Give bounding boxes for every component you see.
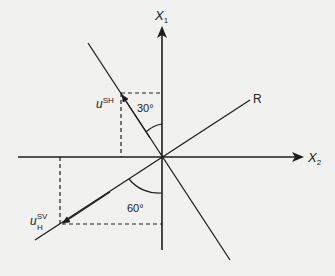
u-h-sv-subscript: H xyxy=(37,223,43,232)
x2-axis-label: X2 xyxy=(307,150,322,167)
u-sh-label: uSH xyxy=(96,96,114,111)
ray-label: R xyxy=(253,92,262,106)
x1-axis-label: X1 xyxy=(154,8,169,25)
angle-label-30: 30° xyxy=(137,102,154,114)
wave-decomposition-diagram: X1 X2 R uSH uSV H 30° 60° xyxy=(0,0,335,276)
sh-polarization-line xyxy=(88,43,230,260)
ray-line xyxy=(35,100,250,240)
angle-arc-60 xyxy=(129,179,162,193)
angle-arc-30 xyxy=(146,124,162,132)
sv-vector-arrow-icon xyxy=(63,192,110,223)
angle-label-60: 60° xyxy=(127,202,144,214)
